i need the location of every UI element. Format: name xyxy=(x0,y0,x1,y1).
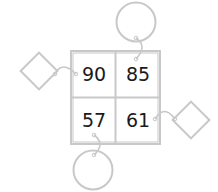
diamond-shape-left[interactable] xyxy=(21,53,58,90)
grid-cell-bottom-left: 57 xyxy=(72,97,116,143)
circle-shape-top[interactable] xyxy=(117,3,156,42)
diamond-shape-right[interactable] xyxy=(173,102,210,139)
grid-cell-top-left: 90 xyxy=(72,51,116,97)
grid-cell-top-right: 85 xyxy=(116,51,160,97)
grid-cell-bottom-right: 61 xyxy=(116,97,160,143)
